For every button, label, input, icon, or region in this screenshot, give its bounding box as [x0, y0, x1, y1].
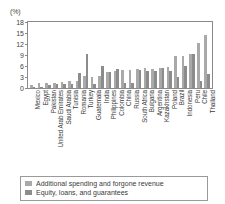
- bar: [86, 54, 89, 88]
- bar: [56, 84, 59, 88]
- x-axis-labels: MexicoEgyptPakistanUnited Arab EmiratesS…: [27, 90, 213, 146]
- bar-group: [173, 22, 181, 88]
- bar: [71, 84, 74, 88]
- bar-group: [44, 22, 52, 88]
- x-tick-label: United Arab Emirates: [58, 90, 64, 148]
- bar-groups: [28, 22, 212, 88]
- y-tick-mark: [25, 33, 27, 34]
- x-tick-label: Thailand: [210, 90, 216, 113]
- x-tick-label: China: [126, 90, 132, 106]
- legend-swatch-spending-icon: [25, 181, 32, 186]
- bar-group: [188, 22, 196, 88]
- bar-group: [90, 22, 98, 88]
- bar-group: [74, 22, 82, 88]
- bar: [192, 54, 195, 88]
- chart-legend: Additional spending and forgone revenue …: [20, 176, 208, 201]
- bar-group: [105, 22, 113, 88]
- x-tick-label: India: [104, 90, 110, 103]
- bar: [101, 66, 104, 88]
- legend-swatch-equity-icon: [25, 190, 32, 195]
- bar-group: [128, 22, 136, 88]
- y-tick-mark: [25, 77, 27, 78]
- legend-item-equity[interactable]: Equity, loans, and guarantees: [25, 188, 203, 197]
- plot-area: 1815129630: [27, 21, 213, 89]
- bar: [63, 84, 66, 88]
- bar-group: [120, 22, 128, 88]
- bar-group: [59, 22, 67, 88]
- bar-group: [196, 22, 204, 88]
- bar: [146, 71, 149, 88]
- bar-group: [52, 22, 60, 88]
- bar-group: [82, 22, 90, 88]
- bar: [33, 87, 36, 88]
- bar-group: [158, 22, 166, 88]
- y-tick-mark: [25, 55, 27, 56]
- x-tick-label: Peru: [195, 90, 201, 103]
- bar: [93, 84, 96, 88]
- x-tick-label: Bulgaria: [149, 90, 155, 112]
- bar: [207, 74, 210, 88]
- legend-label-equity: Equity, loans, and guarantees: [36, 189, 128, 197]
- legend-label-spending: Additional spending and forgone revenue: [36, 180, 164, 188]
- bar-group: [203, 22, 211, 88]
- chart-figure: (%) 1815129630 MexicoEgyptPakistanUnited…: [0, 0, 225, 204]
- y-tick-mark: [25, 22, 27, 23]
- bar: [162, 68, 165, 88]
- bar: [200, 81, 203, 88]
- bar: [177, 77, 180, 88]
- bar: [124, 83, 127, 88]
- bar: [139, 70, 142, 88]
- x-tick-label: Philippines: [111, 90, 117, 119]
- x-tick-label: Tunisia: [73, 90, 79, 109]
- x-tick-label: Kazakhstan: [164, 90, 170, 122]
- bar: [40, 87, 43, 88]
- bar: [48, 85, 51, 88]
- bar-group: [37, 22, 45, 88]
- bar: [78, 73, 81, 88]
- bar: [154, 71, 157, 88]
- x-tick-label: Turkey: [88, 90, 94, 108]
- x-tick-label: Russia: [134, 90, 140, 109]
- x-tick-label: Guatemala: [96, 90, 102, 120]
- bar-group: [181, 22, 189, 88]
- x-tick-label: Chile: [202, 90, 208, 104]
- bar-group: [97, 22, 105, 88]
- bar: [169, 71, 172, 88]
- bar-group: [143, 22, 151, 88]
- bar-group: [135, 22, 143, 88]
- bar: [131, 83, 134, 89]
- bar-group: [150, 22, 158, 88]
- y-tick-mark: [25, 88, 27, 89]
- bar: [184, 66, 187, 88]
- x-tick-label: Brazil: [179, 90, 185, 105]
- bar-group: [29, 22, 37, 88]
- bar-group: [112, 22, 120, 88]
- x-tick-label: Egypt: [43, 90, 49, 106]
- y-axis-unit-label: (%): [10, 8, 20, 15]
- x-tick-label: Pakistan: [51, 90, 57, 113]
- bar: [109, 72, 112, 88]
- bar: [116, 69, 119, 88]
- x-tick-label: South Africa: [142, 90, 148, 123]
- bar-group: [67, 22, 75, 88]
- x-tick-label: Indonesia: [187, 90, 193, 116]
- x-tick-label: Mexico: [35, 90, 41, 109]
- legend-item-spending[interactable]: Additional spending and forgone revenue: [25, 179, 203, 188]
- y-tick-mark: [25, 66, 27, 67]
- bar-group: [165, 22, 173, 88]
- y-tick-mark: [25, 44, 27, 45]
